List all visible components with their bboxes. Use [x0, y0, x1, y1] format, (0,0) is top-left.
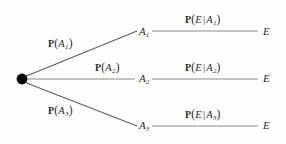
event-e: E [195, 62, 202, 73]
variable-a: A [206, 14, 213, 25]
conditional-probability-label-e-given-a1: P(E|A1) [185, 14, 221, 26]
variable-a: A [58, 38, 65, 49]
close-paren-icon: ) [69, 37, 73, 49]
subscript-1: 1 [146, 31, 150, 39]
subscript-2: 2 [213, 67, 217, 75]
variable-a: A [139, 25, 146, 37]
close-paren-icon: ) [69, 104, 73, 116]
close-paren-icon: ) [217, 13, 221, 25]
subscript-2: 2 [112, 67, 116, 75]
close-paren-icon: ) [217, 61, 221, 73]
variable-a: A [139, 72, 146, 84]
event-e: E [195, 109, 202, 120]
subscript-2: 2 [146, 78, 150, 86]
node-label-a3: A3 [139, 120, 149, 131]
variable-a: A [58, 105, 65, 116]
subscript-3: 3 [146, 125, 150, 133]
prior-probability-label-a2: P(A2) [95, 62, 120, 74]
variable-a: A [105, 62, 112, 73]
edge-root-to-a1 [24, 31, 137, 77]
conditional-probability-label-e-given-a2: P(E|A2) [185, 62, 221, 74]
node-label-a2: A2 [139, 73, 149, 84]
outcome-label-e1: E [263, 26, 270, 37]
node-label-a1: A1 [139, 26, 149, 37]
subscript-1: 1 [213, 19, 217, 27]
subscript-3: 3 [65, 110, 69, 118]
prior-probability-label-a3: P(A3) [48, 105, 73, 117]
edge-root-to-a3 [24, 82, 137, 126]
probability-tree-diagram: P(A1) A1 P(E|A1) E P(A2) A2 P(E|A2) E P(… [0, 0, 286, 144]
prior-probability-label-a1: P(A1) [48, 38, 73, 50]
variable-a: A [206, 109, 213, 120]
subscript-3: 3 [213, 114, 217, 122]
conditional-probability-label-e-given-a3: P(E|A3) [185, 109, 221, 121]
close-paren-icon: ) [116, 61, 120, 73]
event-e: E [195, 14, 202, 25]
variable-a: A [206, 62, 213, 73]
variable-a: A [139, 119, 146, 131]
subscript-1: 1 [65, 43, 69, 51]
root-node-dot [17, 74, 28, 85]
outcome-label-e2: E [263, 73, 270, 84]
outcome-label-e3: E [263, 120, 270, 131]
close-paren-icon: ) [217, 108, 221, 120]
